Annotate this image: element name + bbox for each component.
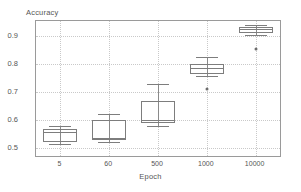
x-tick-label: 10000 (245, 160, 264, 167)
x-tick-label: 60 (104, 160, 112, 167)
y-tick-label: 0.8 (0, 59, 18, 68)
boxplot-10000 (36, 21, 280, 156)
median-line (239, 29, 273, 30)
y-tick-label: 0.9 (0, 31, 18, 40)
whisker-cap-lower (245, 35, 267, 36)
x-tick-label: 1000 (198, 160, 214, 167)
x-axis-label: Epoch (0, 172, 301, 181)
y-tick-label: 0.6 (0, 114, 18, 123)
plot-area (35, 20, 281, 157)
y-axis-label: Accuracy (26, 8, 58, 17)
y-tick-label: 0.7 (0, 86, 18, 95)
outlier-point (254, 47, 257, 50)
x-tick-label: 500 (151, 160, 163, 167)
boxplot-figure: Accuracy 0.50.60.70.80.9 560500100010000… (0, 0, 301, 192)
y-tick-label: 0.5 (0, 142, 18, 151)
plot-inner (36, 21, 280, 156)
whisker-cap-upper (245, 25, 267, 26)
x-tick-label: 5 (57, 160, 61, 167)
